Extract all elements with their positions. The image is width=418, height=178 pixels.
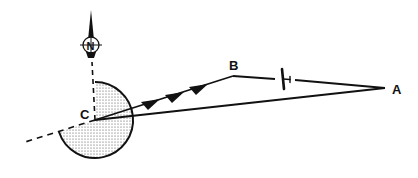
segment-b-a-part1 <box>233 76 275 79</box>
aircraft-icon <box>282 69 290 89</box>
navigation-diagram: N B A C <box>0 0 418 178</box>
arrowheads <box>141 84 208 110</box>
segment-a-c <box>95 88 385 120</box>
north-arrow-compass-icon: N <box>80 10 102 58</box>
north-dashed-line <box>92 62 95 120</box>
arrowhead-icon <box>141 99 160 110</box>
segment-b-a-part2 <box>295 80 385 88</box>
north-label: N <box>87 40 95 52</box>
label-b: B <box>229 58 238 73</box>
label-c: C <box>80 107 90 122</box>
label-a: A <box>392 82 402 97</box>
arrowhead-icon <box>165 92 184 103</box>
arrowhead-icon <box>189 84 208 95</box>
